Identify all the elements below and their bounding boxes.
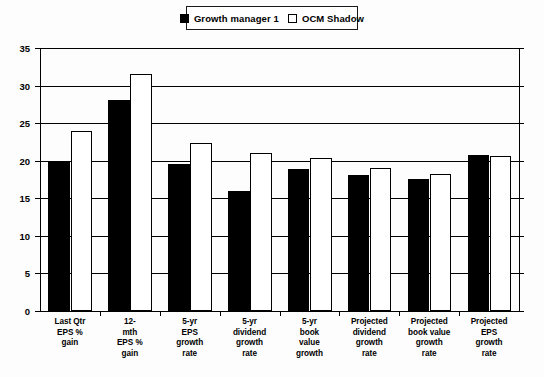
y-tick-label: 35 bbox=[6, 43, 30, 54]
y-tick-label: 30 bbox=[6, 80, 30, 91]
axis-tick bbox=[519, 123, 524, 124]
x-category-label: Last QtrEPS %gain bbox=[40, 317, 100, 349]
bar[interactable] bbox=[310, 158, 332, 311]
bar[interactable] bbox=[190, 143, 212, 311]
axis-tick bbox=[35, 86, 40, 87]
x-axis-tick bbox=[280, 311, 281, 316]
axis-tick bbox=[519, 273, 524, 274]
x-axis-tick bbox=[339, 311, 340, 316]
bar-group bbox=[280, 48, 340, 311]
x-category-label: ProjectedEPSgrowthrate bbox=[459, 317, 519, 359]
axis-tick bbox=[519, 48, 524, 49]
bar[interactable] bbox=[71, 131, 93, 311]
x-axis-tick bbox=[220, 311, 221, 316]
axis-tick bbox=[35, 273, 40, 274]
bar-group bbox=[339, 48, 399, 311]
x-axis-tick bbox=[160, 311, 161, 316]
bar[interactable] bbox=[168, 164, 190, 311]
axis-tick bbox=[519, 161, 524, 162]
x-category-label: 12-mthEPS %gain bbox=[100, 317, 160, 359]
chart-container: Growth manager 1 OCM Shadow 051015202530… bbox=[0, 0, 544, 377]
bar-group bbox=[100, 48, 160, 311]
bar-group bbox=[40, 48, 100, 311]
axis-tick bbox=[519, 311, 524, 312]
bar[interactable] bbox=[228, 191, 250, 311]
x-axis-tick bbox=[100, 311, 101, 316]
bar[interactable] bbox=[130, 74, 152, 311]
bar-group bbox=[220, 48, 280, 311]
axis-tick bbox=[35, 198, 40, 199]
bar[interactable] bbox=[250, 153, 272, 311]
bar-group bbox=[160, 48, 220, 311]
y-tick-label: 25 bbox=[6, 118, 30, 129]
y-tick-label: 15 bbox=[6, 193, 30, 204]
y-tick-label: 5 bbox=[6, 268, 30, 279]
bar[interactable] bbox=[408, 179, 430, 311]
x-axis-tick bbox=[399, 311, 400, 316]
bar-group bbox=[399, 48, 459, 311]
axis-tick bbox=[35, 236, 40, 237]
bar[interactable] bbox=[348, 175, 370, 311]
bar-series-group bbox=[40, 48, 519, 311]
bar[interactable] bbox=[468, 155, 490, 311]
bar[interactable] bbox=[370, 168, 392, 311]
axis-tick bbox=[35, 48, 40, 49]
x-axis-tick bbox=[459, 311, 460, 316]
axis-tick bbox=[35, 161, 40, 162]
x-category-label: Projectedbook valuegrowthrate bbox=[399, 317, 459, 359]
x-axis-category-labels: Last QtrEPS %gain12-mthEPS %gain5-yrEPSg… bbox=[40, 317, 519, 375]
y-tick-label: 20 bbox=[6, 155, 30, 166]
y-tick-label: 10 bbox=[6, 230, 30, 241]
axis-tick bbox=[35, 123, 40, 124]
bar[interactable] bbox=[108, 100, 130, 311]
axis-tick bbox=[519, 86, 524, 87]
x-category-label: 5-yrdividendgrowthrate bbox=[220, 317, 280, 359]
axis-tick bbox=[519, 236, 524, 237]
axis-tick bbox=[519, 198, 524, 199]
bar[interactable] bbox=[288, 169, 310, 311]
x-category-label: 5-yrEPSgrowthrate bbox=[160, 317, 220, 359]
axis-tick bbox=[35, 311, 40, 312]
x-category-label: Projecteddividendgrowthrate bbox=[339, 317, 399, 359]
bar-group bbox=[459, 48, 519, 311]
bar[interactable] bbox=[430, 174, 452, 311]
bar[interactable] bbox=[490, 156, 512, 311]
x-category-label: 5-yrbookvaluegrowth bbox=[280, 317, 340, 359]
bar[interactable] bbox=[48, 161, 70, 311]
y-tick-label: 0 bbox=[6, 306, 30, 317]
